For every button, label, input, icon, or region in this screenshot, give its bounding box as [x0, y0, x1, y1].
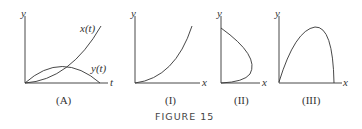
axis-label-t: t	[110, 76, 114, 88]
curve-y-of-t	[25, 67, 100, 84]
curve-label-y-of-t: y(t)	[90, 62, 107, 75]
panel-ii	[221, 16, 260, 83]
axis-label-y: y	[216, 7, 222, 19]
curve-label-x-of-t: x(t)	[79, 22, 96, 35]
panel-label-a: (A)	[56, 94, 72, 107]
figure-15: y t x(t) y(t) (A) y x (I) y x (II) y x (…	[0, 0, 362, 129]
panel-label-i: (I)	[165, 94, 176, 107]
axis-label-y: y	[20, 7, 26, 19]
panel-iii	[279, 16, 342, 83]
panel-label-ii: (II)	[234, 94, 249, 107]
axis-label-y: y	[274, 7, 280, 19]
figure-caption: FIGURE 15	[155, 111, 214, 122]
axis-label-x: x	[261, 76, 267, 88]
curve-ii	[221, 28, 252, 83]
axis-label-x: x	[201, 76, 207, 88]
axis-label-y: y	[130, 7, 136, 19]
curve-i	[135, 26, 192, 83]
curve-iii	[279, 27, 334, 83]
axis-label-x: x	[342, 76, 348, 88]
panel-label-iii: (III)	[302, 94, 321, 107]
panel-i	[135, 16, 200, 83]
